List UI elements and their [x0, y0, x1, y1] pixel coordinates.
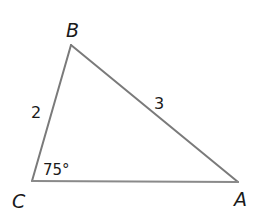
- vertex-c-label: C: [12, 190, 26, 212]
- vertex-a-label: A: [232, 188, 247, 210]
- side-ab-length-label: 3: [154, 94, 164, 113]
- triangle-diagram: B C A 2 3 75°: [0, 0, 260, 219]
- angle-c-label: 75°: [43, 161, 70, 179]
- side-ca: [32, 181, 238, 182]
- side-bc-length-label: 2: [31, 103, 41, 122]
- side-ab: [71, 45, 238, 182]
- vertex-b-label: B: [66, 19, 79, 41]
